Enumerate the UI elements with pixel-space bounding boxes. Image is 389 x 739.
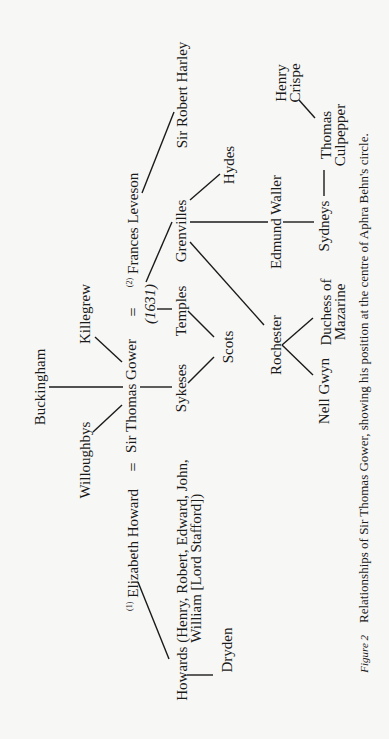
node-hydes: Hydes [222,146,237,184]
node-frances-leveson: (2)Frances Leveson [122,173,141,288]
marriage-marker-1: (1) [125,602,134,611]
node-willoughbys: Willoughbys [78,422,93,499]
node-sykeses: Sykeses [174,364,189,412]
henry-crispe-line2: Crispe [288,63,302,102]
node-elizabeth-howard: (1)Elizabeth Howard [122,489,141,611]
node-buckingham: Buckingham [33,349,48,426]
edge-rochester-duchess [282,318,313,345]
howards-line1: Howards (Henry, Robert, Edward, John, [175,459,189,700]
edge-killegrew-gower [95,337,122,362]
node-rochester: Rochester [269,315,284,375]
figure-label: Figure 2 [358,635,370,673]
marriage-marker-2: (2) [125,278,134,287]
node-sir-thomas-gower: Sir Thomas Gower [124,339,139,453]
marriage-equals-second: = [126,307,141,316]
node-thomas-culpepper: ThomasCulpepper [319,104,347,166]
elizabeth-howard-label: Elizabeth Howard [125,489,141,598]
edge-rochester-nellgwyn [282,345,313,375]
edge-leveson-grenvilles [146,222,172,282]
edge-grenvilles-rochester [190,242,264,325]
edge-culpepper-crispe [299,100,315,118]
howards-line2: William [Lord Stafford]) [189,459,203,700]
node-grenvilles: Grenvilles [174,200,189,262]
node-killegrew: Killegrew [78,284,93,344]
henry-crispe-line1: Henry [274,63,288,102]
edge-sykeses-scots [188,357,214,383]
edge-willoughbys-gower [93,405,122,432]
thomas-culpepper-line2: Culpepper [333,104,347,166]
node-scots: Scots [221,331,236,364]
figure-caption: Figure 2Relationships of Sir Thomas Gowe… [356,133,372,673]
node-temples: Temples [174,286,189,337]
node-sydneys: Sydneys [317,201,332,252]
node-edmund-waller: Edmund Waller [269,175,284,269]
node-duchess-of-mazarine: Duchess ofMazarine [319,278,347,345]
frances-leveson-label: Frances Leveson [125,173,141,274]
node-howards: Howards (Henry, Robert, Edward, John,Wil… [175,459,203,700]
edge-elizabeth-howards [138,582,169,659]
node-sir-robert-harley: Sir Robert Harley [175,42,190,149]
edge-leveson-harley [142,112,174,193]
thomas-culpepper-line1: Thomas [319,104,333,166]
node-nell-gwyn: Nell Gwyn [317,358,332,424]
marriage-equals-first: = [126,462,141,471]
edge-temples-scots [188,311,214,337]
node-dryden: Dryden [220,628,235,673]
duchess-line2: Mazarine [333,278,347,345]
edge-grenvilles-hydes [190,174,220,200]
duchess-line1: Duchess of [319,278,333,345]
caption-text: Relationships of Sir Thomas Gower, showi… [356,133,371,623]
node-henry-crispe: HenryCrispe [274,63,302,102]
marriage-year: (1631) [143,284,158,324]
